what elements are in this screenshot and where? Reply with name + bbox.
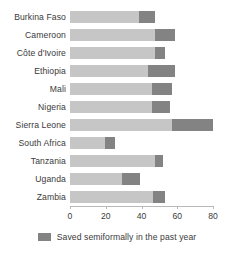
- x-axis-tick-label: 80: [208, 211, 218, 221]
- x-axis-tick: [213, 206, 214, 209]
- bar-row: [70, 188, 213, 206]
- bar-row: [70, 62, 213, 80]
- plot-area: [70, 8, 213, 206]
- bar-segment-saved-other: [70, 155, 155, 167]
- bar-segment-saved-semiformally: [172, 119, 213, 131]
- x-axis-tick: [177, 206, 178, 209]
- bar-row: [70, 170, 213, 188]
- stacked-bar: [70, 47, 165, 59]
- category-label: Zambia: [0, 188, 66, 206]
- x-axis-tick-label: 0: [68, 211, 73, 221]
- bar-segment-saved-semiformally: [105, 137, 115, 149]
- bar-segment-saved-semiformally: [155, 47, 165, 59]
- bar-segment-saved-other: [70, 65, 148, 77]
- category-label: Côte d'Ivoire: [0, 44, 66, 62]
- bar-segment-saved-semiformally: [153, 191, 165, 203]
- category-label: Burkina Faso: [0, 8, 66, 26]
- bar-row: [70, 26, 213, 44]
- bar-segment-saved-other: [70, 29, 155, 41]
- saved-semiformally-bar-chart: Burkina FasoCameroonCôte d'IvoireEthiopi…: [0, 0, 234, 255]
- category-label: Sierra Leone: [0, 116, 66, 134]
- bar-row: [70, 8, 213, 26]
- bar-segment-saved-semiformally: [122, 173, 140, 185]
- stacked-bar: [70, 29, 175, 41]
- x-axis-tick: [70, 206, 71, 209]
- category-axis-labels: Burkina FasoCameroonCôte d'IvoireEthiopi…: [0, 8, 66, 206]
- category-label: Nigeria: [0, 98, 66, 116]
- legend-label-saved-semiformally: Saved semiformally in the past year: [57, 232, 197, 242]
- bar-segment-saved-semiformally: [139, 11, 155, 23]
- x-axis-tick: [106, 206, 107, 209]
- x-axis-tick-label: 60: [172, 211, 182, 221]
- bar-segment-saved-other: [70, 137, 105, 149]
- bar-segment-saved-other: [70, 47, 155, 59]
- bar-segment-saved-other: [70, 119, 172, 131]
- bar-segment-saved-other: [70, 191, 153, 203]
- bar-segment-saved-other: [70, 83, 152, 95]
- bar-row: [70, 152, 213, 170]
- bar-segment-saved-other: [70, 101, 152, 113]
- bar-row: [70, 98, 213, 116]
- bar-segment-saved-semiformally: [155, 155, 163, 167]
- x-axis-tick: [142, 206, 143, 209]
- bar-segment-saved-semiformally: [148, 65, 175, 77]
- stacked-bar: [70, 173, 140, 185]
- stacked-bar: [70, 101, 170, 113]
- legend-swatch-saved-semiformally: [38, 233, 51, 241]
- bar-segment-saved-semiformally: [152, 83, 172, 95]
- stacked-bar: [70, 65, 175, 77]
- bar-row: [70, 134, 213, 152]
- stacked-bar: [70, 83, 172, 95]
- bar-row: [70, 44, 213, 62]
- stacked-bar: [70, 191, 165, 203]
- category-label: Ethiopia: [0, 62, 66, 80]
- x-axis-tick-label: 20: [101, 211, 111, 221]
- category-label: Mali: [0, 80, 66, 98]
- stacked-bar: [70, 119, 213, 131]
- bar-segment-saved-other: [70, 11, 139, 23]
- stacked-bar: [70, 11, 155, 23]
- stacked-bar: [70, 137, 115, 149]
- chart-legend: Saved semiformally in the past year: [0, 232, 234, 242]
- category-label: Tanzania: [0, 152, 66, 170]
- stacked-bar: [70, 155, 163, 167]
- x-axis-line: 020406080: [70, 206, 213, 207]
- bar-segment-saved-semiformally: [152, 101, 170, 113]
- bar-row: [70, 80, 213, 98]
- category-label: Cameroon: [0, 26, 66, 44]
- bar-segment-saved-other: [70, 173, 122, 185]
- bar-row: [70, 116, 213, 134]
- x-axis-tick-label: 40: [137, 211, 147, 221]
- category-label: Uganda: [0, 170, 66, 188]
- bar-segment-saved-semiformally: [155, 29, 175, 41]
- category-label: South Africa: [0, 134, 66, 152]
